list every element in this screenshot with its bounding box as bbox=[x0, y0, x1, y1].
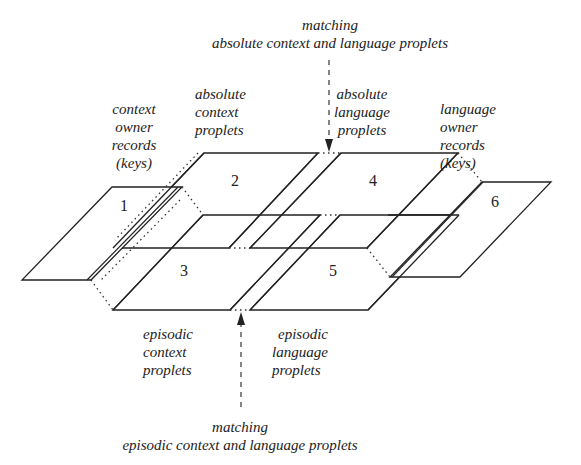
plane-1-label: context owner records (keys) bbox=[104, 100, 164, 172]
bottom-matching-line-2: episodic context and language proplets bbox=[90, 436, 390, 454]
plane-4-label-line: proplets bbox=[322, 121, 402, 139]
plane-6-label-line: owner bbox=[440, 118, 520, 136]
plane-6-label-line: language bbox=[440, 100, 520, 118]
plane-5-label-line: language bbox=[272, 343, 342, 361]
plane-6-label-line: (keys) bbox=[440, 154, 520, 172]
plane-2-label-line: context bbox=[195, 103, 265, 121]
plane-6-label-line: records bbox=[440, 136, 520, 154]
plane-4-label: absolute language proplets bbox=[322, 85, 402, 139]
plane-3-episodic-context bbox=[113, 215, 320, 310]
plane-2-label-line: absolute bbox=[195, 85, 265, 103]
plane-3-number: 3 bbox=[180, 262, 188, 280]
plane-2-label: absolute context proplets bbox=[195, 85, 265, 139]
plane-4-number: 4 bbox=[369, 172, 377, 190]
plane-5-label: episodic language proplets bbox=[272, 325, 342, 379]
top-matching-line-1: matching bbox=[160, 16, 500, 34]
database-diagram bbox=[0, 0, 581, 465]
plane-2-label-line: proplets bbox=[195, 121, 265, 139]
top-matching-label: matching absolute context and language p… bbox=[160, 16, 500, 52]
plane-4-label-line: absolute bbox=[322, 85, 402, 103]
plane-1-number: 1 bbox=[120, 197, 128, 215]
top-matching-line-2: absolute context and language proplets bbox=[160, 34, 500, 52]
plane-4-absolute-language bbox=[250, 153, 458, 248]
plane-4-label-line: language bbox=[322, 103, 402, 121]
plane-3-label-line: proplets bbox=[143, 361, 213, 379]
plane-5-label-line: episodic bbox=[272, 325, 342, 343]
bottom-matching-line-1: matching bbox=[90, 418, 390, 436]
plane-5-label-line: proplets bbox=[272, 361, 342, 379]
plane-5-number: 5 bbox=[329, 262, 337, 280]
plane-1-label-line: owner bbox=[104, 118, 164, 136]
plane-6-label: language owner records (keys) bbox=[440, 100, 520, 172]
plane-3-label-line: context bbox=[143, 343, 213, 361]
bottom-matching-arrow bbox=[237, 312, 245, 410]
plane-3-label-line: episodic bbox=[143, 325, 213, 343]
plane-1-label-line: (keys) bbox=[104, 154, 164, 172]
plane-3-label: episodic context proplets bbox=[143, 325, 213, 379]
plane-6-number: 6 bbox=[491, 193, 499, 211]
bottom-matching-label: matching episodic context and language p… bbox=[90, 418, 390, 454]
plane-2-number: 2 bbox=[231, 172, 239, 190]
plane-1-label-line: records bbox=[104, 136, 164, 154]
plane-1-label-line: context bbox=[104, 100, 164, 118]
